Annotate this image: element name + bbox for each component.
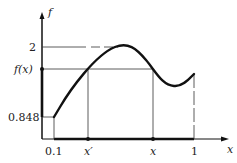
function-curve: [54, 45, 194, 117]
point-x: [151, 137, 155, 141]
y-tick-0848: 0.848: [8, 111, 40, 124]
y-axis-arrow-icon: [40, 12, 45, 19]
x-tick-xprime: x′: [84, 145, 93, 158]
x-tick-x: x: [150, 145, 157, 158]
y-axis-label: f: [47, 6, 54, 19]
y-tick-2: 2: [29, 41, 36, 54]
y-tick-fx: f(x): [13, 63, 33, 76]
x-tick-0.1: 0.1: [45, 145, 63, 158]
x-tick-1: 1: [191, 145, 198, 158]
point-xprime: [86, 137, 90, 141]
x-axis-label: x: [227, 143, 234, 156]
function-diagram: f x 2 f(x) 0.848 0.1 x′ x 1: [0, 0, 237, 163]
x-axis-arrow-icon: [221, 137, 229, 142]
point-fx-on-axis: [40, 67, 44, 71]
